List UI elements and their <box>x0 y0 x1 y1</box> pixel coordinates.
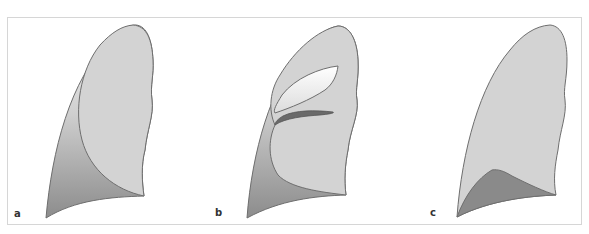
panel-label-c: c <box>430 207 436 218</box>
lung-diagram <box>0 0 589 234</box>
panel-label-b: b <box>215 207 222 218</box>
panel-c <box>457 25 567 217</box>
panel-label-a: a <box>14 208 21 219</box>
panel-a <box>46 25 153 218</box>
panel-b <box>247 26 358 218</box>
